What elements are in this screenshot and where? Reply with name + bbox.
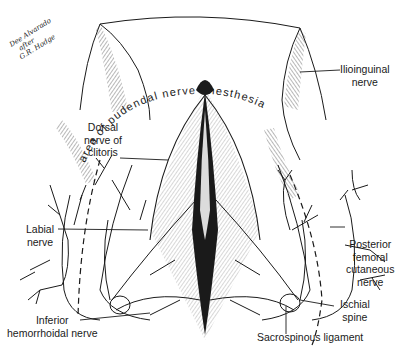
label-posterior-femoral-cutaneous-nerve: Posterior femoral cutaneous nerve — [346, 238, 394, 288]
ischial-spine-leader — [300, 300, 334, 306]
label-ilioinguinal-nerve: Ilioinguinal nerve — [340, 63, 390, 88]
ilioinguinal-leader — [300, 70, 340, 72]
dorsal-nerve-leader — [120, 158, 168, 160]
label-inferior-hemorrhoidal-nerve: Inferior hemorrhoidal nerve — [7, 314, 97, 339]
label-ischial-spine: Ischial spine — [340, 298, 370, 323]
label-sacrospinous-ligament: Sacrospinous ligament — [257, 331, 363, 344]
anatomical-illustration: area of pudendal nerve anesthesia Dee Al… — [0, 0, 412, 359]
label-dorsal-nerve-of-clitoris: Dorsal nerve of clitoris — [84, 121, 122, 159]
central-structure — [150, 80, 260, 340]
labial-nerve-leader — [58, 229, 148, 230]
label-labial-nerve: Labial nerve — [26, 223, 54, 248]
